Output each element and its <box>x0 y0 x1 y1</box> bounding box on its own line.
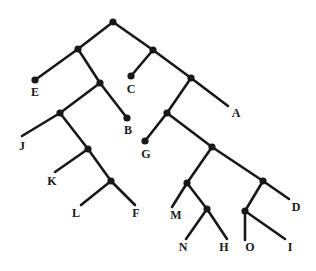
internal-node-dot <box>187 74 194 81</box>
tree-branch <box>167 78 191 113</box>
taxon-label-h: H <box>219 241 228 253</box>
taxon-label-d: D <box>292 201 301 213</box>
tree-branch <box>245 211 285 239</box>
internal-node-dot <box>183 179 190 186</box>
tree-branch <box>78 49 100 83</box>
tree-canvas <box>0 0 316 271</box>
internal-node-dot <box>109 18 116 25</box>
internal-node-dot <box>96 79 103 86</box>
taxon-label-j: J <box>19 140 25 152</box>
taxon-label-k: K <box>47 175 56 187</box>
internal-node-dot <box>203 205 210 212</box>
tree-branch <box>167 113 212 147</box>
tree-branch <box>35 49 78 80</box>
tree-branch <box>88 149 111 181</box>
tree-branch <box>60 113 88 149</box>
internal-node-dot <box>149 46 156 53</box>
internal-node-dot <box>56 109 63 116</box>
tree-branch <box>191 78 228 106</box>
tree-branches <box>22 22 289 240</box>
tree-branch <box>187 147 212 183</box>
phylogenetic-tree-figure: ECABJGKLFMNHOID <box>0 0 316 271</box>
tree-branch <box>186 209 207 239</box>
leaf-node-dot <box>123 114 130 121</box>
tree-branch <box>263 181 289 199</box>
tree-branch <box>78 22 113 49</box>
internal-node-dot <box>259 177 266 184</box>
tree-branch <box>245 181 263 211</box>
internal-node-dot <box>84 145 91 152</box>
tree-branch <box>81 181 111 205</box>
taxon-label-a: A <box>232 107 241 119</box>
taxon-label-i: I <box>288 241 293 253</box>
tree-branch <box>55 149 88 172</box>
leaf-node-dot <box>127 72 134 79</box>
leaf-node-dot <box>31 76 38 83</box>
taxon-label-b: B <box>124 124 132 136</box>
internal-node-dot <box>163 109 170 116</box>
tree-branch <box>212 147 263 181</box>
tree-branch <box>22 113 60 136</box>
internal-node-dot <box>241 207 248 214</box>
tree-branch <box>111 181 135 205</box>
tree-branch <box>131 50 153 76</box>
tree-branch <box>60 83 100 113</box>
tree-branch <box>153 50 191 78</box>
taxon-label-l: L <box>72 207 80 219</box>
taxon-label-e: E <box>31 86 39 98</box>
tree-branch <box>113 22 153 50</box>
taxon-label-m: M <box>170 209 181 221</box>
tree-branch <box>187 183 207 209</box>
taxon-label-f: F <box>132 207 139 219</box>
tree-branch <box>172 183 187 207</box>
internal-node-dot <box>208 143 215 150</box>
internal-node-dot <box>107 177 114 184</box>
tree-branch <box>207 209 227 239</box>
internal-node-dot <box>74 45 81 52</box>
taxon-label-o: O <box>245 241 254 253</box>
taxon-label-g: G <box>141 148 150 160</box>
tree-branch <box>145 113 167 141</box>
taxon-label-n: N <box>179 241 188 253</box>
taxon-label-c: C <box>127 83 136 95</box>
tree-branch <box>100 83 127 118</box>
leaf-node-dot <box>141 137 148 144</box>
